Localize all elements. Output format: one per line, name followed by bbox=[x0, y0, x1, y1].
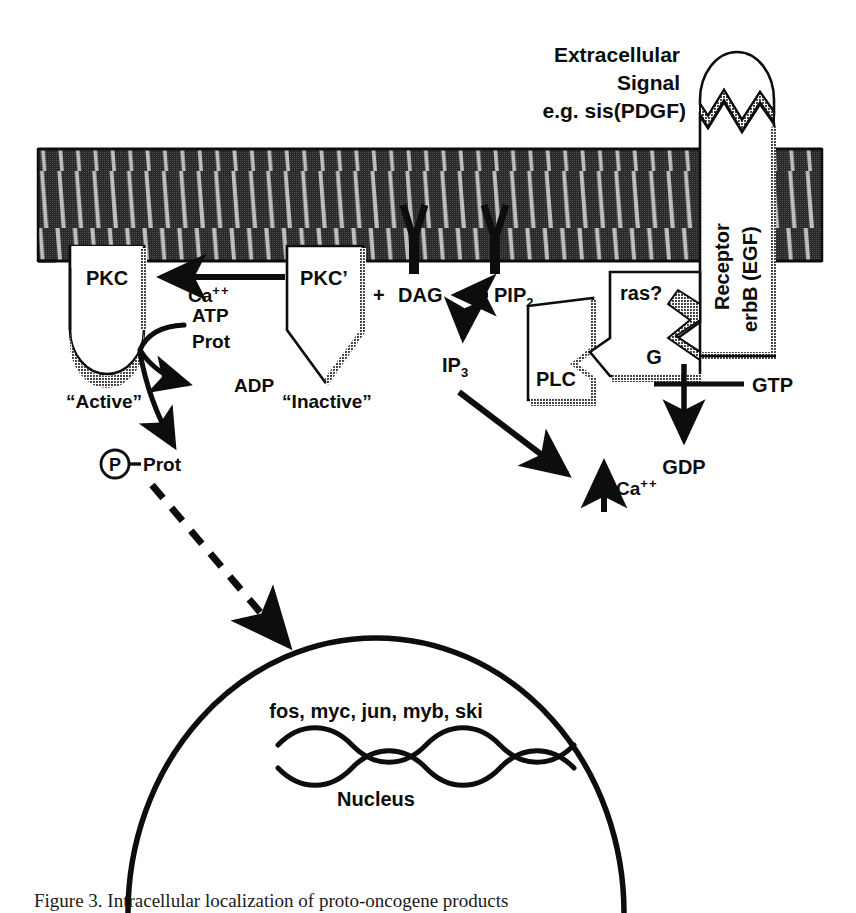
nucleus-label: Nucleus bbox=[337, 788, 415, 810]
receptor-label-line1: Receptor bbox=[711, 223, 733, 310]
plc-label: PLC bbox=[536, 368, 576, 390]
gtp-label: GTP bbox=[752, 374, 793, 396]
atp-label: ATP bbox=[192, 305, 229, 326]
gdp-label: GDP bbox=[662, 456, 705, 478]
calcium-influx-arrow: Ca+ + bbox=[162, 277, 285, 306]
adp-label: ADP bbox=[234, 375, 274, 396]
pkc-inactive-label: PKC’ bbox=[300, 267, 348, 289]
nucleus-group: fos, myc, jun, myb, ski Nucleus bbox=[128, 638, 624, 913]
plus-sign: + bbox=[373, 284, 385, 306]
extracellular-signal-label: Extracellular Signal e.g. sis(PDGF) bbox=[542, 43, 686, 122]
g-protein-label: G bbox=[646, 346, 662, 368]
phospho-circle-label: P bbox=[109, 455, 121, 475]
signal-label-line2: Signal bbox=[617, 71, 680, 94]
pkc-inactive-state-label: “Inactive” bbox=[282, 391, 372, 412]
receptor-erbb-egf: Receptor erbB (EGF) bbox=[700, 102, 776, 360]
signal-label-line3: e.g. sis(PDGF) bbox=[542, 99, 686, 122]
figure-caption: Figure 3. Intracellular localization of … bbox=[34, 888, 824, 913]
phospho-protein-group: P Prot bbox=[101, 450, 182, 478]
signaling-pathway-diagram: Receptor erbB (EGF) PKC “Active” PKC’ “I… bbox=[0, 0, 856, 913]
kinase-reaction-arrows: ATP Prot ADP bbox=[140, 305, 274, 446]
figure-root: Receptor erbB (EGF) PKC “Active” PKC’ “I… bbox=[0, 0, 856, 913]
pkc-active-shape: PKC “Active” bbox=[66, 246, 147, 412]
pkc-active-state-label: “Active” bbox=[66, 391, 142, 412]
pkc-active-label: PKC bbox=[86, 267, 128, 289]
nuclear-genes-label: fos, myc, jun, myb, ski bbox=[269, 700, 482, 722]
receptor-label-line2: erbB (EGF) bbox=[739, 226, 761, 332]
phospho-target-label: Prot bbox=[143, 454, 182, 475]
calcium-release-label: Ca+ + bbox=[616, 476, 657, 499]
prot-substrate-label: Prot bbox=[192, 331, 231, 352]
ras-label: ras? bbox=[620, 282, 662, 304]
nuclear-translocation-arrow bbox=[152, 485, 288, 645]
pkc-inactive-shape: PKC’ “Inactive” bbox=[282, 246, 372, 412]
calcium-influx-label: Ca+ + bbox=[188, 283, 229, 306]
dag-label: DAG bbox=[398, 284, 442, 306]
plc-shape: PLC bbox=[528, 298, 597, 406]
ip3-label: IP3 bbox=[442, 354, 468, 380]
signal-label-line1: Extracellular bbox=[554, 43, 680, 66]
